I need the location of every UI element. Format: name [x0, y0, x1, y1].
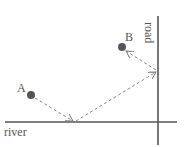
- diagram-canvas: A B river road: [0, 0, 190, 147]
- point-a: [27, 91, 35, 99]
- label-a: A: [17, 81, 26, 95]
- path-a-to-river: [35, 98, 73, 121]
- point-b: [118, 43, 126, 51]
- label-road: road: [142, 22, 156, 43]
- path-river-to-road: [76, 72, 156, 121]
- label-river: river: [4, 125, 27, 139]
- diagram-svg: A B river road: [0, 0, 190, 147]
- label-b: B: [125, 30, 133, 44]
- path-road-to-b: [126, 51, 156, 70]
